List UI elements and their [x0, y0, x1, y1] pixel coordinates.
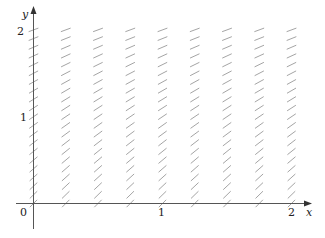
slope-segment: [190, 79, 199, 84]
slope-segment: [287, 37, 297, 41]
slope-segment: [126, 71, 135, 76]
slope-segment: [288, 191, 295, 198]
slope-segment: [61, 97, 70, 102]
slope-segment: [222, 54, 231, 58]
slope-segment: [62, 131, 70, 137]
slope-segment: [126, 122, 135, 128]
slope-segment: [255, 88, 264, 93]
slope-segment: [158, 97, 167, 102]
slope-segment: [223, 122, 232, 128]
slope-segment: [222, 45, 232, 49]
y-tick-1: 1: [20, 112, 27, 123]
slope-segment: [126, 97, 135, 102]
slope-segment: [158, 28, 168, 32]
slope-segment: [126, 148, 134, 155]
slope-segment: [62, 191, 69, 198]
slope-segment: [223, 140, 231, 146]
slope-segment: [126, 165, 134, 172]
slope-segment: [222, 62, 231, 67]
slope-segment: [254, 45, 264, 49]
slope-segment: [287, 62, 296, 67]
slope-segment: [158, 71, 167, 76]
slope-segment: [287, 105, 296, 111]
x-tick-1: 1: [158, 207, 165, 218]
slope-segment: [255, 174, 263, 181]
slope-segment: [94, 174, 102, 181]
slope-segment: [255, 71, 264, 76]
slope-segment: [222, 37, 232, 41]
slope-segment: [223, 165, 231, 172]
slope-segment: [255, 105, 264, 111]
slope-segment: [158, 54, 167, 58]
slope-segment: [223, 174, 231, 181]
slope-segment: [94, 105, 103, 111]
slope-segment: [94, 183, 102, 190]
slope-segment: [288, 183, 296, 190]
y-axis-label: y: [22, 9, 28, 20]
slope-segment: [61, 79, 70, 84]
slope-segment: [61, 54, 70, 58]
slope-segment: [93, 79, 102, 84]
slope-segment: [190, 114, 199, 120]
slope-segment: [223, 88, 232, 93]
slope-segment: [190, 97, 199, 102]
slope-segment: [61, 62, 70, 67]
slope-segment: [191, 157, 199, 164]
slope-segment: [191, 131, 199, 137]
slope-segment: [125, 28, 135, 32]
slope-segment: [126, 183, 134, 190]
y-tick-2: 2: [17, 26, 24, 37]
slope-segment: [222, 28, 232, 32]
slope-segment: [158, 140, 166, 146]
slope-segment: [93, 54, 102, 58]
slope-segment: [94, 97, 103, 102]
slope-segment: [255, 183, 263, 190]
slope-segment: [94, 191, 101, 198]
slope-segment: [159, 183, 167, 190]
slope-segment: [62, 174, 70, 181]
slope-segment: [190, 71, 199, 76]
slope-segment: [94, 157, 102, 164]
slope-segment: [255, 122, 264, 128]
slope-segment: [191, 174, 199, 181]
slope-segment: [288, 157, 296, 164]
slope-segment: [287, 54, 296, 58]
slope-segment: [159, 165, 167, 172]
slope-segment: [191, 140, 199, 146]
slope-segment: [287, 97, 296, 102]
slope-segment: [223, 183, 231, 190]
slope-segment: [223, 157, 231, 164]
slope-segment: [62, 165, 70, 172]
origin-label: 0: [20, 207, 27, 218]
slope-segment: [126, 54, 135, 58]
slope-segment: [158, 37, 168, 41]
slope-segment: [126, 131, 134, 137]
slope-segment: [256, 191, 263, 198]
slope-segment: [94, 165, 102, 172]
slope-segment: [255, 140, 263, 146]
slope-segment: [126, 157, 134, 164]
slope-segment: [190, 105, 199, 111]
slope-segment: [93, 37, 103, 41]
x-tick-2: 2: [288, 207, 295, 218]
slope-segment: [61, 105, 70, 111]
slope-segment: [62, 157, 70, 164]
slope-segment: [287, 71, 296, 76]
slope-segment: [158, 88, 167, 93]
slope-segment: [223, 191, 230, 198]
slope-segment: [93, 28, 103, 32]
slope-segment: [255, 157, 263, 164]
slope-segment: [125, 45, 135, 49]
slope-segment: [126, 62, 135, 67]
slope-segment: [255, 62, 264, 67]
slope-segment: [190, 37, 200, 41]
slope-segment: [223, 148, 231, 155]
slope-segment: [126, 79, 135, 84]
slope-segment: [126, 114, 135, 120]
slope-segment: [94, 140, 102, 146]
slope-segment: [61, 114, 70, 120]
slope-segment: [190, 54, 199, 58]
slope-segment: [158, 45, 168, 49]
slope-segment: [93, 71, 102, 76]
slope-segment: [288, 165, 296, 172]
